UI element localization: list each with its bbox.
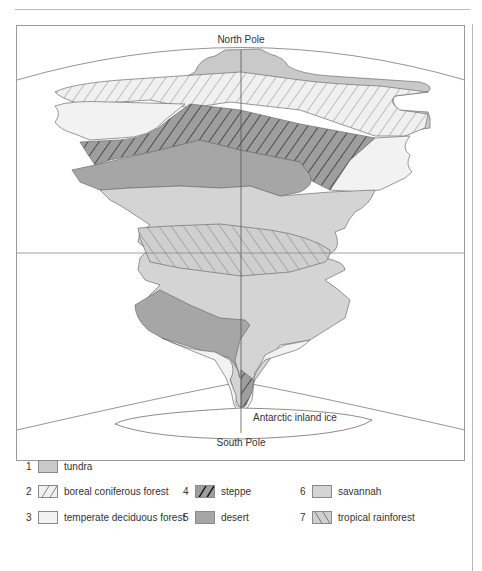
legend-label: desert [221,512,249,523]
legend-item-steppe: 4 steppe [183,483,251,499]
temperate-swatch-icon [38,511,58,524]
legend-number: 6 [300,486,309,497]
legend-label: tundra [64,461,92,472]
legend-item-tundra: 1 tundra [26,458,92,474]
legend-label: tropical rainforest [338,512,415,523]
steppe-hatch-swatch-icon [195,485,215,498]
tundra-swatch-icon [38,460,58,473]
region-savannah [100,186,375,408]
south-pole-label: South Pole [0,437,482,448]
legend-label: steppe [221,486,251,497]
legend-number: 2 [26,486,35,497]
north-pole-label: North Pole [0,34,482,45]
legend-number: 1 [26,461,35,472]
legend-item-temperate: 3 temperate deciduous forest [26,509,185,525]
legend-number: 4 [183,486,192,497]
legend-number: 3 [26,512,35,523]
legend-number: 7 [300,512,309,523]
antarctic-ice-label: Antarctic inland ice [253,412,337,423]
legend-item-tropical-rainforest: 7 tropical rainforest [300,509,415,525]
legend-number: 5 [183,512,192,523]
legend-label: temperate deciduous forest [64,512,185,523]
savannah-swatch-icon [312,485,332,498]
legend-item-boreal: 2 boreal coniferous forest [26,483,169,499]
legend-item-savannah: 6 savannah [300,483,381,499]
legend-item-desert: 5 desert [183,509,249,525]
boreal-hatch-swatch-icon [38,485,58,498]
desert-swatch-icon [195,511,215,524]
rainforest-hatch-swatch-icon [312,511,332,524]
legend-label: savannah [338,486,381,497]
legend-label: boreal coniferous forest [64,486,169,497]
